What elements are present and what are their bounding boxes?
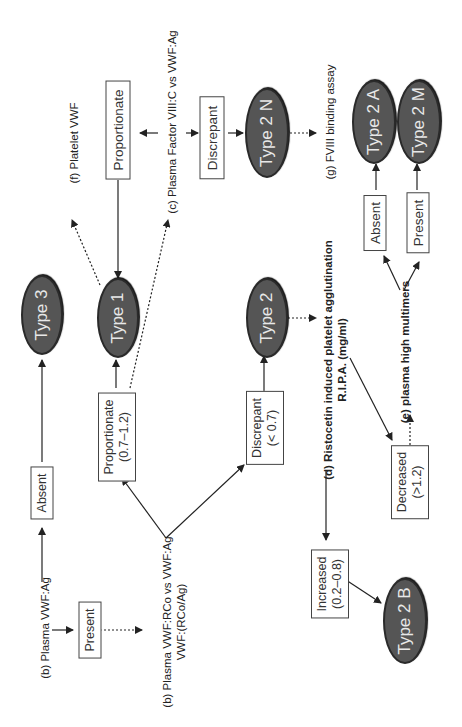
outcome-multimers-absent: Absent [364,195,387,251]
proportionate-ratio-line1: Proportionate [102,399,117,474]
type-2b-ellipse: Type 2 B [383,578,427,664]
discrepant-ratio-line2: (< 0.7) [265,398,280,458]
proportionate-ratio-line2: (0.7–1.2) [117,399,132,474]
decreased-line1: Decreased [395,452,410,512]
outcome-proportionate-ratio: Proportionate (0.7–1.2) [98,392,136,481]
outcome-proportionate-fviii: Proportionate [106,80,131,179]
outcome-discrepant-fviii: Discrepant [200,97,225,180]
step-b-plasma-vwf-rco: (b) Plasma VWF:RCo vs VWF:Ag VWF:(RCo/Ag… [160,536,188,707]
increased-line1: Increased [315,557,330,612]
type-2-ellipse: Type 2 [246,278,288,358]
step-d-ripa: (d) Ristocetin induced platelet agglutin… [321,240,349,480]
vwd-diagnostic-flowchart: (b) Plasma VWF:Ag (b) Plasma VWF:RCo vs … [0,0,462,727]
step-b-rco-line2: VWF:(RCo/Ag) [174,536,188,707]
step-b-plasma-vwf-ag: (b) Plasma VWF:Ag [38,577,52,679]
outcome-multimers-present: Present [407,193,430,254]
step-b-rco-line1: (b) Plasma VWF:RCo vs VWF:Ag [160,536,174,707]
type-2m-ellipse: Type 2 M [397,80,441,164]
type-2n-ellipse: Type 2 N [245,88,289,178]
step-f-platelet-vwf: (f) Platelet VWF [67,102,81,183]
outcome-discrepant-ratio: Discrepant (< 0.7) [246,391,284,465]
type-1-ellipse: Type 1 [97,278,139,358]
discrepant-ratio-line1: Discrepant [250,398,265,458]
type-2a-ellipse: Type 2 A [352,80,396,164]
step-g-fviii-binding: (g) FVIII binding assay [323,64,337,179]
step-d-line2: R.I.P.A. (mg/ml) [335,240,349,480]
increased-line2: (0.2–0.8) [330,557,345,612]
decreased-line2: (>1.2) [410,452,425,512]
outcome-absent-ag: Absent [31,467,54,520]
type-3-ellipse: Type 3 [21,275,63,355]
outcome-increased: Increased (0.2–0.8) [311,550,349,619]
step-d-line1: (d) Ristocetin induced platelet agglutin… [321,240,335,480]
step-c-factor-viii: (c) Plasma Factor VIII:C vs VWF:Ag [165,30,179,213]
outcome-present: Present [79,601,102,658]
outcome-decreased: Decreased (>1.2) [391,445,429,519]
step-e-plasma-multimers: (e) plasma high multimers [398,281,412,424]
